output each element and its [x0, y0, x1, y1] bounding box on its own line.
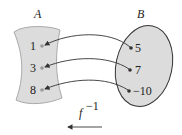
- point-a-3: [40, 66, 44, 70]
- set-b-element-5: 5: [135, 41, 141, 55]
- set-b-element-neg10: −10: [133, 84, 152, 98]
- set-a-region: [14, 27, 62, 104]
- set-a-element-3: 3: [30, 61, 36, 75]
- set-b-label: B: [137, 7, 145, 21]
- function-label: f: [79, 106, 84, 120]
- function-superscript: −1: [86, 99, 99, 113]
- point-a-8: [40, 88, 44, 92]
- point-a-1: [40, 44, 44, 48]
- set-b-region: [108, 20, 180, 112]
- inverse-function-diagram: A B 1 3 8 5 7 −10 f −1: [0, 0, 182, 135]
- set-b-element-7: 7: [135, 63, 141, 77]
- set-a-element-1: 1: [30, 39, 36, 53]
- set-a-element-8: 8: [30, 83, 36, 97]
- set-a-label: A: [33, 7, 42, 21]
